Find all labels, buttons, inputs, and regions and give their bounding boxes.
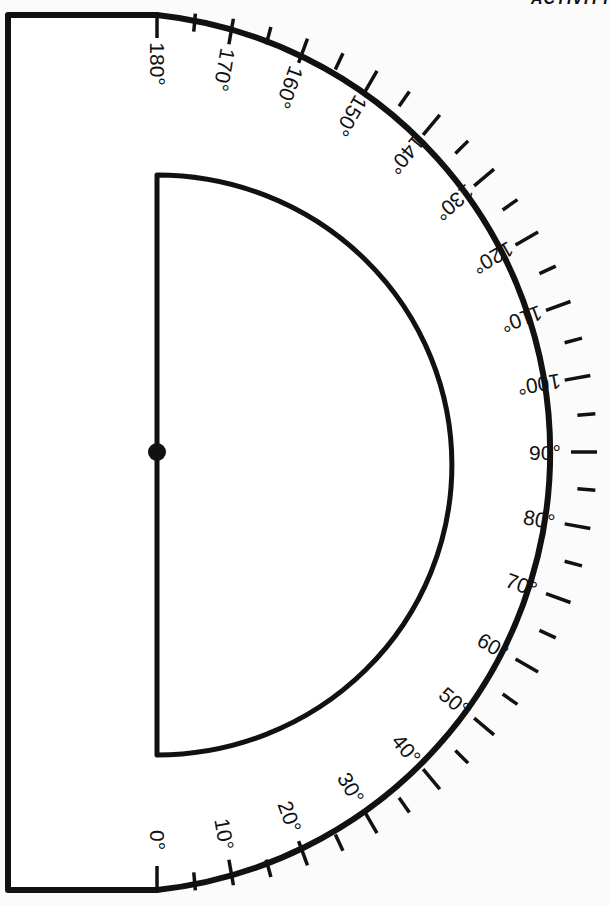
minor-tick — [577, 414, 595, 416]
minor-tick — [399, 92, 409, 107]
minor-tick — [577, 489, 595, 491]
major-tick — [565, 524, 591, 529]
center-point-icon — [148, 443, 166, 461]
major-tick — [516, 232, 539, 245]
center-dot — [148, 443, 166, 461]
major-tick — [516, 659, 539, 672]
protractor-drawing: 0°10°20°30°40°50°60°70°80°90°100°110°120… — [0, 0, 609, 906]
major-tick — [474, 169, 494, 186]
major-tick — [546, 302, 570, 311]
minor-tick — [399, 798, 409, 813]
minor-tick — [455, 141, 468, 154]
major-tick — [565, 376, 591, 381]
minor-tick — [539, 630, 555, 638]
minor-tick — [503, 694, 518, 704]
minor-tick — [335, 834, 343, 850]
minor-tick — [503, 200, 518, 210]
major-tick — [423, 769, 440, 789]
degree-label: 90° — [529, 441, 561, 464]
major-tick — [546, 594, 570, 603]
minor-tick — [194, 872, 196, 890]
degree-label: 180° — [146, 42, 169, 85]
minor-tick — [539, 266, 555, 274]
protractor-diagram: ACTIVITY 0°10°20°30°40°50°60°70°80°90°10… — [0, 0, 609, 906]
major-tick — [474, 718, 494, 735]
major-tick — [364, 71, 377, 94]
minor-tick — [455, 750, 468, 763]
minor-tick — [335, 53, 343, 69]
minor-tick — [565, 561, 582, 566]
minor-tick — [565, 338, 582, 343]
major-tick — [364, 811, 377, 834]
major-tick — [423, 115, 440, 135]
minor-tick — [194, 14, 196, 32]
degree-label: 0° — [146, 830, 169, 850]
